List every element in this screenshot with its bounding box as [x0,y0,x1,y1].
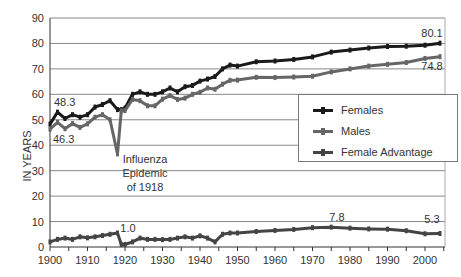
y-tick-label: 20 [32,190,44,202]
y-tick-label: 0 [38,241,44,253]
legend-swatch-males-icon [313,130,333,133]
x-tick-label: 1940 [188,254,212,266]
x-tick-label: 1960 [263,254,287,266]
annotation-advantage-1919: 1.0 [120,222,135,234]
legend-label: Female Advantage [341,146,433,158]
y-tick-label: 80 [32,37,44,49]
y-tick-label: 10 [32,216,44,228]
x-tick-label: 1950 [225,254,249,266]
legend-swatch-females-icon [313,109,333,112]
legend-label: Males [341,125,370,137]
y-tick-label: 90 [32,12,44,24]
x-tick-label: 1970 [300,254,324,266]
y-axis-label: IN YEARS [21,121,33,191]
x-tick-label: 1910 [75,254,99,266]
annotation-influenza-3: of 1918 [127,181,164,193]
y-tick-label: 70 [32,63,44,75]
annotation-influenza-2: Epidemic [122,167,168,179]
annotation-males-2004: 74.8 [421,60,442,72]
x-tick-label: 1920 [113,254,137,266]
x-tick-label: 1900 [38,254,62,266]
x-tick-label: 2000 [413,254,437,266]
legend-item-female-advantage: Female Advantage [313,145,433,159]
legend: Females Males Female Advantage [298,94,458,162]
annotation-males-1900: 46.3 [53,133,74,145]
legend-swatch-advantage-icon [313,151,333,154]
annotation-influenza-1: Influenza [123,153,169,165]
legend-item-females: Females [313,103,383,117]
x-tick-label: 1980 [338,254,362,266]
x-tick-label: 1930 [150,254,174,266]
annotation-advantage-1975: 7.8 [329,211,344,223]
y-tick-label: 30 [32,165,44,177]
y-tick-label: 40 [32,139,44,151]
legend-item-males: Males [313,124,370,138]
annotation-females-2004: 80.1 [421,27,442,39]
annotation-advantage-2004: 5.3 [424,213,439,225]
y-tick-label: 60 [32,88,44,100]
legend-label: Females [341,104,383,116]
y-tick-label: 50 [32,114,44,126]
x-tick-label: 1990 [375,254,399,266]
annotation-females-1900: 48.3 [54,96,75,108]
